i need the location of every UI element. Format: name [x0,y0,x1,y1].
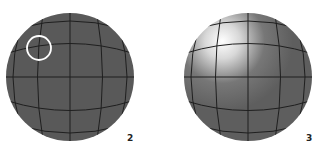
grid-sphere-illustration [0,0,158,150]
panel-label: 3 [306,133,312,143]
grid-sphere-illustration [158,0,316,150]
panel-2: 2 [0,0,158,150]
panel-3: 3 [158,0,316,150]
panel-label: 2 [127,133,133,143]
